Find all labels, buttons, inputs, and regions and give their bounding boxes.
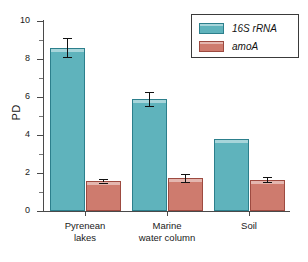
y-tick-label: 2 [0, 168, 30, 177]
error-bar-cap-upper [99, 179, 108, 180]
bar [132, 99, 167, 211]
y-tick-major [37, 173, 43, 174]
y-tick-minor [39, 154, 43, 155]
error-bar-cap-lower [263, 182, 272, 183]
y-tick-major [37, 211, 43, 212]
legend-entry-16s-rrna: 16S rRNA [199, 20, 298, 36]
error-bar-cap-upper [145, 92, 154, 93]
y-tick-major [37, 135, 43, 136]
y-tick-label: 10 [0, 16, 30, 25]
y-tick-minor [39, 116, 43, 117]
legend-entry-amoa: amoA [199, 38, 298, 54]
y-tick-minor [39, 40, 43, 41]
swatch-highlight [200, 24, 223, 26]
y-tick-major [37, 97, 43, 98]
error-bar-cap-lower [63, 57, 72, 58]
error-bar-line [149, 92, 150, 105]
error-bar-cap-upper [63, 38, 72, 39]
y-tick-major [37, 59, 43, 60]
swatch-highlight [200, 42, 223, 44]
y-tick-major [37, 21, 43, 22]
error-bar-cap-upper [263, 177, 272, 178]
legend-label-amoa: amoA [232, 41, 258, 52]
x-category-label-line: Soil [194, 220, 304, 232]
x-tick [85, 211, 86, 216]
bar-highlight [215, 140, 248, 143]
y-tick-minor [39, 78, 43, 79]
error-bar-cap-lower [145, 106, 154, 107]
error-bar-cap-lower [99, 183, 108, 184]
x-category-label: Soil [194, 220, 304, 232]
error-bar-cap-lower [181, 182, 190, 183]
bar [86, 181, 121, 211]
y-tick-label: 8 [0, 54, 30, 63]
x-tick [249, 211, 250, 216]
y-tick-label: 6 [0, 92, 30, 101]
error-bar-line [67, 38, 68, 57]
bar [250, 180, 285, 211]
bar [50, 48, 85, 211]
error-bar-cap-upper [181, 174, 190, 175]
legend-swatch-amoa [199, 41, 224, 52]
y-tick-label: 4 [0, 130, 30, 139]
chart-legend: 16S rRNA amoA [191, 14, 299, 58]
x-tick [167, 211, 168, 216]
y-tick-label: 0 [0, 206, 30, 215]
bar [214, 139, 249, 211]
legend-swatch-16s-rrna [199, 23, 224, 34]
x-category-label-line: water column [112, 232, 222, 244]
bar [168, 178, 203, 211]
legend-label-16s-rrna: 16S rRNA [232, 23, 277, 34]
chart-figure: PD 0246810 PyreneanlakesMarinewater colu… [0, 0, 308, 262]
error-bar-line [185, 174, 186, 182]
y-tick-minor [39, 192, 43, 193]
